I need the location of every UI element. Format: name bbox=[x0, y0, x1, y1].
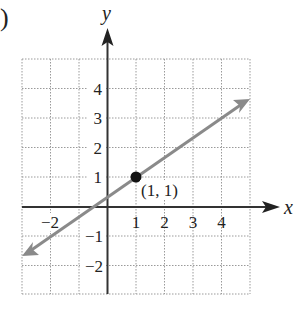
x-tick-label: 3 bbox=[189, 213, 198, 232]
y-tick-label: 4 bbox=[94, 80, 103, 99]
line-arrow-down-left-icon bbox=[22, 242, 39, 256]
x-tick-label: 2 bbox=[160, 213, 169, 232]
graph-canvas: ) x y −2 1 2 3 4 bbox=[0, 0, 301, 309]
line-arrow-up-right-icon bbox=[233, 99, 250, 113]
y-axis-label: y bbox=[100, 2, 111, 25]
y-tick-label: 1 bbox=[94, 168, 103, 187]
x-tick-label: 4 bbox=[217, 213, 226, 232]
x-tick-labels: −2 1 2 3 4 bbox=[36, 213, 226, 232]
y-tick-label: −1 bbox=[85, 227, 103, 246]
point-marker bbox=[131, 172, 142, 183]
corner-label: ) bbox=[0, 3, 9, 32]
y-tick-labels: 4 3 2 1 −1 −2 bbox=[80, 80, 105, 276]
x-axis-label: x bbox=[283, 196, 293, 218]
x-tick-label: 1 bbox=[132, 213, 141, 232]
point-1-1: (1, 1) bbox=[131, 172, 186, 201]
y-tick-label: −2 bbox=[85, 257, 103, 276]
y-tick-label: 3 bbox=[94, 109, 103, 128]
point-label: (1, 1) bbox=[141, 181, 178, 200]
y-tick-label: 2 bbox=[94, 139, 103, 158]
x-tick-label: −2 bbox=[41, 213, 59, 232]
